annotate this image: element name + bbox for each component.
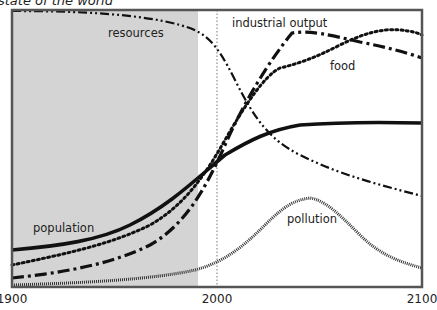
label-population: population	[33, 221, 94, 235]
chart-plot: resources industrial output food populat…	[0, 0, 437, 310]
x-tick-2100: 2100	[407, 292, 437, 306]
label-industrial-output: industrial output	[232, 16, 328, 30]
label-pollution: pollution	[287, 212, 337, 226]
label-resources: resources	[108, 26, 164, 40]
historical-shaded-region	[12, 10, 198, 287]
x-tick-2000: 2000	[202, 292, 233, 306]
label-food: food	[330, 59, 355, 73]
x-tick-1900: 1900	[0, 292, 27, 306]
